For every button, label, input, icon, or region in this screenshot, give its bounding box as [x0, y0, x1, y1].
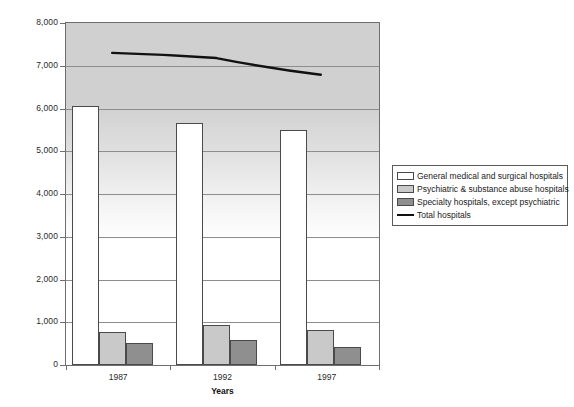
x-axis-label-1987: 1987	[88, 372, 148, 382]
gridline	[66, 151, 379, 152]
legend-color-swatch-icon	[397, 185, 414, 193]
bar-1987-series2	[126, 343, 153, 365]
total-hospitals-line	[112, 53, 321, 75]
y-axis-tick-label: 8,000	[16, 17, 58, 27]
bar-1987-series0	[72, 106, 99, 365]
x-axis-tick	[275, 366, 276, 370]
bar-1987-series1	[99, 332, 126, 365]
legend-item-label: Psychiatric & substance abuse hospitals	[417, 184, 569, 194]
legend-color-swatch-icon	[397, 172, 414, 180]
y-axis-tick-label: 5,000	[16, 145, 58, 155]
legend-item[interactable]: Specialty hospitals, except psychiatric	[397, 196, 564, 208]
y-axis-tick-label: 3,000	[16, 231, 58, 241]
x-axis-label-1992: 1992	[193, 372, 253, 382]
y-axis-tick-label: 2,000	[16, 274, 58, 284]
gridline	[66, 66, 379, 67]
gridline	[66, 194, 379, 195]
bar-1992-series1	[203, 325, 230, 365]
plot-area	[65, 22, 380, 366]
y-axis-tick-label: 4,000	[16, 188, 58, 198]
gridline	[66, 322, 379, 323]
x-axis-tick	[66, 366, 67, 370]
legend-item[interactable]: Total hospitals	[397, 209, 564, 221]
legend-item-label: Specialty hospitals, except psychiatric	[417, 197, 560, 207]
bar-1997-series1	[307, 330, 334, 365]
legend-color-swatch-icon	[397, 198, 414, 206]
y-axis-tick-label: 0	[16, 359, 58, 369]
bar-1992-series2	[230, 340, 257, 365]
y-axis-tick-label: 7,000	[16, 60, 58, 70]
gridline	[66, 280, 379, 281]
legend-item-label: Total hospitals	[417, 210, 471, 220]
legend-line-swatch-icon	[397, 214, 414, 216]
chart-container: 8,0007,0006,0005,0004,0003,0002,0001,000…	[0, 0, 574, 407]
legend-item-label: General medical and surgical hospitals	[417, 171, 563, 181]
y-axis-tick-label: 1,000	[16, 316, 58, 326]
x-axis-label-1997: 1997	[297, 372, 357, 382]
legend-item[interactable]: Psychiatric & substance abuse hospitals	[397, 183, 564, 195]
bar-1997-series2	[334, 347, 361, 365]
chart-legend: General medical and surgical hospitalsPs…	[392, 165, 568, 226]
y-axis-tick-label: 6,000	[16, 103, 58, 113]
x-axis-tick	[170, 366, 171, 370]
x-axis-tick	[379, 366, 380, 370]
bar-1997-series0	[280, 130, 307, 365]
bar-1992-series0	[176, 123, 203, 365]
x-axis-title: Years	[65, 386, 380, 396]
gridline	[66, 237, 379, 238]
gridline	[66, 109, 379, 110]
legend-item[interactable]: General medical and surgical hospitals	[397, 170, 564, 182]
